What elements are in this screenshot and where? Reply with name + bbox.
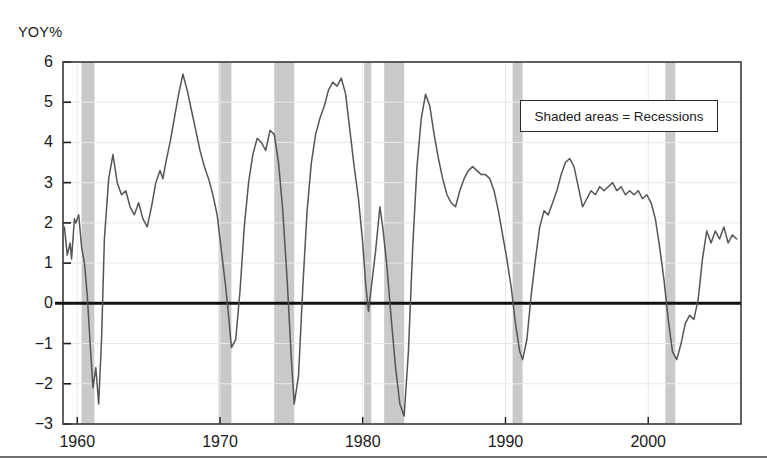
y-tick-label: −3 bbox=[19, 415, 53, 433]
y-tick-label: 6 bbox=[19, 53, 53, 71]
y-tick-label: 3 bbox=[19, 174, 53, 192]
y-tick-label: 1 bbox=[19, 254, 53, 272]
legend-box: Shaded areas = Recessions bbox=[520, 100, 718, 132]
x-tick-label: 1980 bbox=[328, 433, 398, 451]
x-tick-label: 1960 bbox=[42, 433, 112, 451]
y-tick-label: −2 bbox=[19, 375, 53, 393]
page-bottom-rule bbox=[0, 456, 767, 458]
y-tick-label: 2 bbox=[19, 214, 53, 232]
chart-figure: YOY% 6543210−1−2−3 19601970198019902000 … bbox=[0, 0, 767, 461]
y-tick-label: 0 bbox=[19, 294, 53, 312]
x-tick-label: 2000 bbox=[613, 433, 683, 451]
legend-entry-recessions: Shaded areas = Recessions bbox=[534, 109, 703, 124]
y-tick-label: 5 bbox=[19, 93, 53, 111]
x-tick-label: 1990 bbox=[470, 433, 540, 451]
line-chart-plot bbox=[0, 0, 767, 461]
x-tick-label: 1970 bbox=[185, 433, 255, 451]
y-tick-label: 4 bbox=[19, 133, 53, 151]
y-tick-label: −1 bbox=[19, 335, 53, 353]
